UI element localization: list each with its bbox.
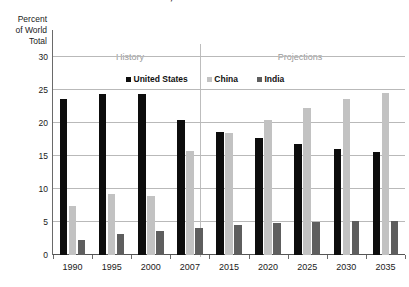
bar-china-2030 xyxy=(343,99,351,255)
bar-india-2030 xyxy=(352,221,360,255)
bar-india-1990 xyxy=(78,240,86,255)
y-axis-tick-label: 10 xyxy=(28,185,48,194)
x-axis-ticks xyxy=(53,255,405,260)
bar-india-2007 xyxy=(195,228,203,255)
bar-india-2000 xyxy=(156,231,164,255)
x-axis-tick-label-2030: 2030 xyxy=(327,262,366,273)
bar-china-2025 xyxy=(303,108,311,255)
bar-group-2015 xyxy=(209,57,248,255)
x-axis-tick-label-2020: 2020 xyxy=(249,262,288,273)
bar-china-2035 xyxy=(382,93,390,255)
bar-group-1995 xyxy=(92,57,131,255)
x-axis-tick xyxy=(53,255,54,259)
bar-united-states-2030 xyxy=(334,149,342,255)
x-axis-tick xyxy=(327,255,328,259)
bar-united-states-2015 xyxy=(216,132,224,255)
x-axis-tick-label-2000: 2000 xyxy=(131,262,170,273)
x-axis-tick-label-1995: 1995 xyxy=(92,262,131,273)
x-axis-tick xyxy=(366,255,367,259)
x-axis-tick-label-1990: 1990 xyxy=(53,262,92,273)
x-axis-tick xyxy=(249,255,250,259)
bar-united-states-2035 xyxy=(373,152,381,255)
bar-india-1995 xyxy=(117,234,125,255)
y-axis-tick-label: 15 xyxy=(28,152,48,161)
bar-china-2000 xyxy=(147,196,155,255)
y-axis-tick-label: 0 xyxy=(28,251,48,260)
bar-group-1990 xyxy=(53,57,92,255)
x-axis-tick xyxy=(170,255,171,259)
x-axis-tick-label-2025: 2025 xyxy=(288,262,327,273)
y-axis-label: Percent of World Total xyxy=(0,14,47,48)
bar-united-states-2025 xyxy=(294,144,302,255)
bar-united-states-2000 xyxy=(138,94,146,255)
bar-china-2020 xyxy=(264,120,272,255)
x-axis-tick-label-2035: 2035 xyxy=(366,262,405,273)
y-axis-tick-labels: 051015202530 xyxy=(26,57,48,255)
plot-area xyxy=(53,57,405,255)
chart-title: China, and India 1990–2035 xyxy=(0,0,409,2)
bar-united-states-2007 xyxy=(177,120,185,255)
bar-china-2015 xyxy=(225,133,233,255)
bar-group-2035 xyxy=(366,57,405,255)
bar-china-1990 xyxy=(69,206,77,256)
x-axis-tick xyxy=(405,255,406,259)
bar-china-2007 xyxy=(186,151,194,255)
x-axis-tick-label-2007: 2007 xyxy=(170,262,209,273)
x-axis-tick xyxy=(92,255,93,259)
bar-group-2025 xyxy=(288,57,327,255)
bar-united-states-2020 xyxy=(255,138,263,255)
bar-group-2020 xyxy=(249,57,288,255)
x-axis-tick xyxy=(209,255,210,259)
y-axis-tick-label: 20 xyxy=(28,119,48,128)
y-axis-tick-label: 25 xyxy=(28,86,48,95)
bar-india-2020 xyxy=(273,223,281,255)
x-axis-tick-label-2015: 2015 xyxy=(209,262,248,273)
bar-united-states-1995 xyxy=(99,94,107,255)
bar-india-2035 xyxy=(391,221,399,255)
y-axis-tick-label: 5 xyxy=(28,218,48,227)
bar-group-2007 xyxy=(170,57,209,255)
bar-united-states-1990 xyxy=(60,99,68,255)
bar-group-2030 xyxy=(327,57,366,255)
x-axis-tick xyxy=(288,255,289,259)
bar-china-1995 xyxy=(108,194,116,255)
bar-india-2025 xyxy=(312,222,320,255)
y-axis-tick-label: 30 xyxy=(28,53,48,62)
bar-group-2000 xyxy=(131,57,170,255)
bar-india-2015 xyxy=(234,225,242,255)
chart-container: China, and India 1990–2035 Percent of Wo… xyxy=(0,0,409,287)
x-axis-tick-labels: 199019952000200720152020202520302035 xyxy=(53,262,405,276)
x-axis-tick xyxy=(131,255,132,259)
